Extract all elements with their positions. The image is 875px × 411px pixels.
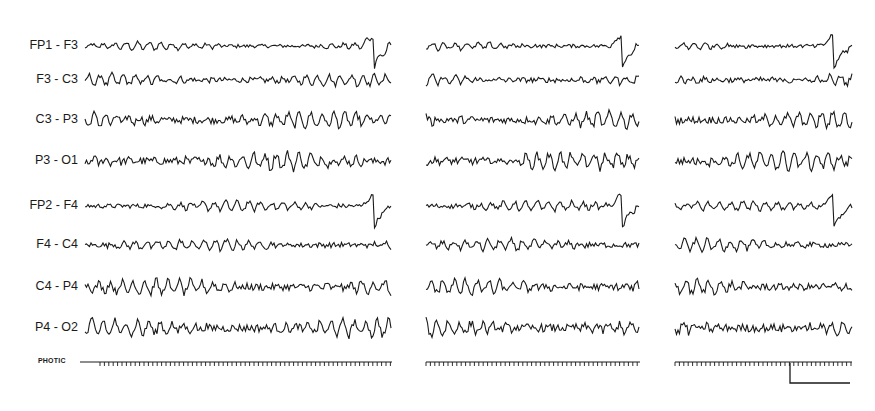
eeg-trace bbox=[426, 74, 639, 86]
eeg-trace bbox=[426, 110, 639, 129]
eeg-trace bbox=[426, 317, 639, 337]
eeg-trace bbox=[85, 38, 391, 69]
eeg-trace bbox=[85, 239, 391, 252]
eeg-trace bbox=[675, 112, 852, 129]
eeg-trace bbox=[675, 322, 852, 336]
eeg-trace bbox=[426, 36, 639, 67]
eeg-trace bbox=[426, 194, 639, 227]
eeg-trace bbox=[85, 318, 391, 339]
eeg-trace bbox=[85, 195, 391, 228]
eeg-trace bbox=[426, 152, 639, 172]
eeg-trace bbox=[675, 238, 852, 253]
eeg-trace bbox=[85, 111, 391, 129]
eeg-trace bbox=[675, 195, 852, 227]
eeg-trace bbox=[426, 278, 639, 295]
eeg-plot bbox=[0, 0, 875, 411]
eeg-trace bbox=[85, 278, 391, 296]
eeg-trace bbox=[426, 238, 639, 252]
eeg-trace bbox=[675, 35, 852, 68]
eeg-trace bbox=[85, 150, 391, 172]
eeg-trace bbox=[675, 151, 852, 172]
eeg-trace bbox=[675, 278, 852, 295]
eeg-trace bbox=[675, 74, 852, 86]
eeg-trace bbox=[85, 72, 391, 87]
